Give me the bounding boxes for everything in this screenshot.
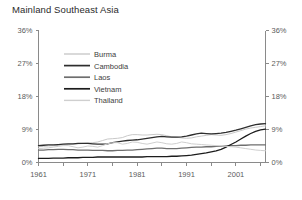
legend-label-vietnam: Vietnam [94, 85, 121, 94]
legend-label-laos: Laos [94, 73, 111, 82]
x-tick-label: 1981 [129, 170, 146, 179]
legend-label-cambodia: Cambodia [94, 62, 129, 71]
legend-label-burma: Burma [94, 50, 117, 59]
y-tick-label-left: 36% [17, 26, 32, 35]
y-tick-label-right: 36% [272, 26, 287, 35]
x-tick-label: 1991 [178, 170, 195, 179]
x-tick-label: 1971 [80, 170, 97, 179]
y-tick-label-left: 18% [17, 92, 32, 101]
line-chart: 0%0%9%9%18%18%27%27%36%36%19611971198119… [0, 0, 302, 200]
legend-label-thailand: Thailand [94, 96, 123, 105]
y-tick-label-right: 0% [272, 158, 283, 167]
x-tick-label: 2001 [228, 170, 245, 179]
x-tick-label: 1961 [30, 170, 47, 179]
y-tick-label-left: 9% [22, 125, 33, 134]
y-tick-label-right: 9% [272, 125, 283, 134]
y-tick-label-right: 18% [272, 92, 287, 101]
y-tick-label-left: 0% [22, 158, 33, 167]
series-line-laos [39, 145, 266, 151]
y-tick-label-right: 27% [272, 59, 287, 68]
series-lines [39, 124, 266, 159]
chart-container: Mainland Southeast Asia 0%0%9%9%18%18%27… [0, 0, 302, 200]
y-tick-label-left: 27% [17, 59, 32, 68]
axes: 0%0%9%9%18%18%27%27%36%36%19611971198119… [17, 26, 286, 178]
chart-legend: BurmaCambodiaLaosVietnamThailand [64, 50, 129, 105]
